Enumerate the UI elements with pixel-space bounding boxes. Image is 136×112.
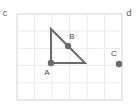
point-A-label: A xyxy=(44,68,50,77)
point-C-marker[interactable] xyxy=(116,61,122,67)
point-A-marker[interactable] xyxy=(48,60,54,66)
point-C-label: C xyxy=(111,49,117,58)
figure-root: A B C c d xyxy=(0,0,136,112)
point-B-marker[interactable] xyxy=(65,43,71,49)
geometry-figure-svg: A B C c d xyxy=(0,0,136,112)
corner-label-d: d xyxy=(126,8,131,18)
point-B-label: B xyxy=(69,32,74,41)
corner-label-c: c xyxy=(3,8,8,18)
